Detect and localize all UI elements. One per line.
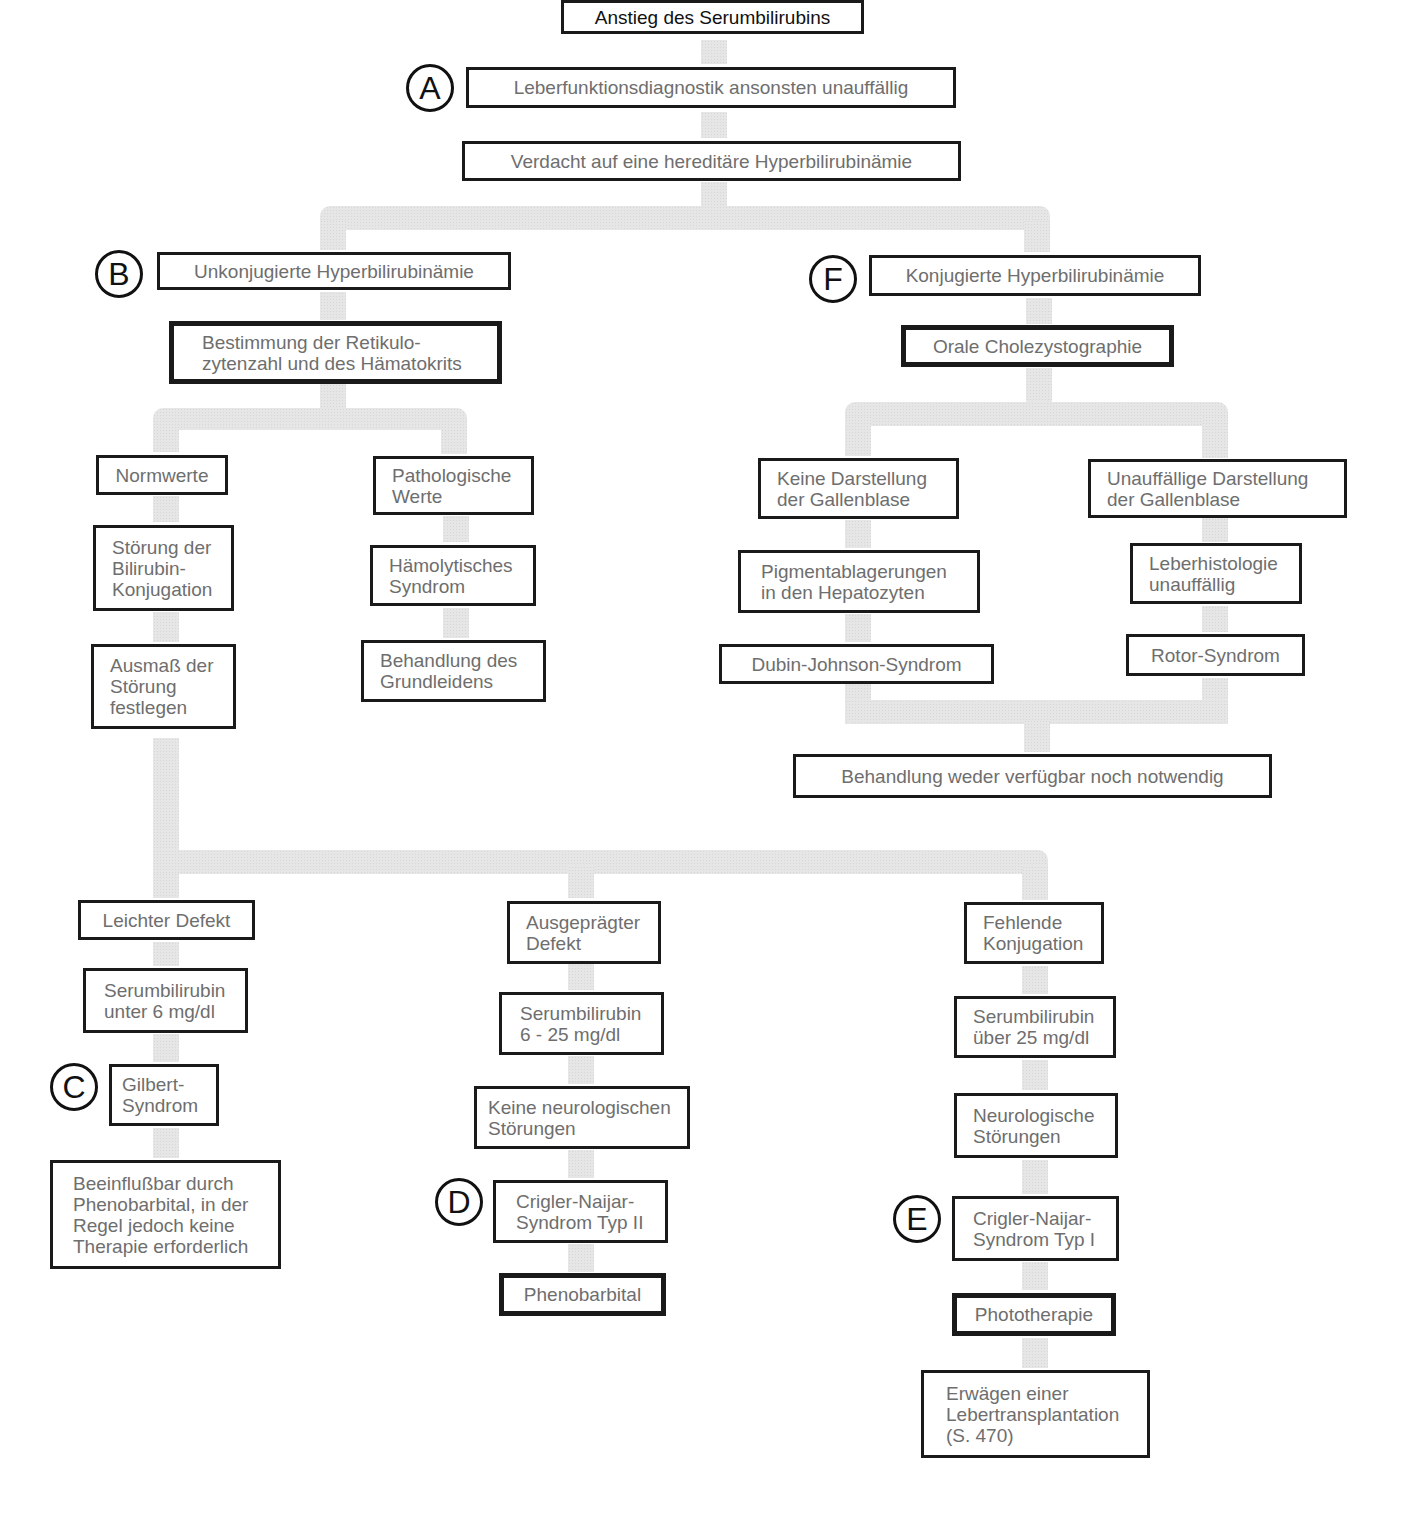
node-text: Verdacht auf eine hereditäre Hyperbiliru… — [511, 151, 912, 172]
node-neuro: Neurologische Störungen — [954, 1093, 1118, 1158]
node-text: Gilbert- Syndrom — [122, 1074, 198, 1116]
connector — [1022, 1060, 1048, 1090]
node-behandlung-weder: Behandlung weder verfügbar noch notwendi… — [793, 754, 1272, 798]
marker-e: E — [893, 1195, 941, 1243]
node-leberhistologie: Leberhistologie unauffällig — [1130, 543, 1302, 604]
node-lebertransplantation: Erwägen einer Lebertransplantation (S. 4… — [921, 1370, 1150, 1458]
connector — [443, 608, 469, 638]
node-keine-darstellung: Keine Darstellung der Gallenblase — [758, 458, 959, 519]
connector — [153, 496, 179, 522]
node-serum-unter6: Serumbilirubin unter 6 mg/dl — [83, 968, 248, 1033]
node-stoerung-konjugation: Störung der Bilirubin- Konjugation — [93, 525, 234, 611]
connector — [1022, 1262, 1048, 1290]
node-text: Beeinflußbar durch Phenobarbital, in der… — [73, 1173, 248, 1257]
node-gilbert: Gilbert- Syndrom — [109, 1064, 219, 1126]
connector — [1026, 298, 1052, 324]
title-box: Anstieg des Serumbilirubins — [561, 0, 864, 34]
connector — [845, 520, 871, 548]
connector — [1022, 866, 1048, 900]
node-leichter-defekt: Leichter Defekt — [78, 900, 255, 940]
connector — [1022, 1338, 1048, 1368]
connector — [153, 420, 179, 452]
node-text: Ausmaß der Störung festlegen — [110, 655, 213, 718]
node-text: Behandlung weder verfügbar noch notwendi… — [841, 766, 1223, 787]
connector — [568, 866, 594, 898]
connector — [1024, 720, 1050, 752]
marker-f: F — [809, 255, 857, 303]
connector — [320, 220, 346, 250]
connector — [568, 1056, 594, 1084]
node-unkonjugiert: Unkonjugierte Hyperbilirubinämie — [157, 252, 511, 290]
connector — [153, 1034, 179, 1062]
node-unauffaellige-darstellung: Unauffällige Darstellung der Gallenblase — [1088, 459, 1347, 518]
node-text: Keine Darstellung der Gallenblase — [777, 468, 927, 510]
node-phototherapie: Phototherapie — [952, 1293, 1116, 1336]
title-text: Anstieg des Serumbilirubins — [595, 7, 831, 28]
node-crigler2: Crigler-Naijar- Syndrom Typ II — [493, 1180, 668, 1243]
connector — [701, 112, 727, 138]
node-text: Bestimmung der Retikulo- zytenzahl und d… — [202, 332, 462, 374]
node-text: Ausgeprägter Defekt — [526, 912, 640, 954]
node-text: Störung der Bilirubin- Konjugation — [112, 537, 212, 600]
connector — [845, 416, 871, 456]
node-pathologisch: Pathologische Werte — [373, 456, 534, 515]
connector — [568, 1244, 594, 1272]
node-leberfunktion: Leberfunktionsdiagnostik ansonsten unauf… — [466, 67, 956, 108]
node-text: Unkonjugierte Hyperbilirubinämie — [194, 261, 474, 282]
node-text: Crigler-Naijar- Syndrom Typ I — [973, 1208, 1095, 1250]
node-cholezystographie: Orale Cholezystographie — [901, 325, 1174, 367]
connector — [1202, 416, 1228, 458]
node-text: Dubin-Johnson-Syndrom — [751, 654, 961, 675]
connector — [153, 1128, 179, 1158]
connector — [153, 612, 179, 642]
node-text: Phenobarbital — [524, 1284, 641, 1305]
connector — [320, 206, 1050, 230]
node-fehlende-konjugation: Fehlende Konjugation — [964, 902, 1104, 964]
marker-b: B — [95, 250, 143, 298]
node-konjugiert: Konjugierte Hyperbilirubinämie — [869, 255, 1201, 296]
node-ausmass: Ausmaß der Störung festlegen — [91, 644, 236, 729]
node-text: Erwägen einer Lebertransplantation (S. 4… — [946, 1383, 1119, 1446]
connector — [568, 1150, 594, 1178]
node-pigment: Pigmentablagerungen in den Hepatozyten — [738, 550, 980, 613]
connector — [153, 942, 179, 966]
node-haemolytisch: Hämolytisches Syndrom — [370, 545, 536, 606]
node-text: Leichter Defekt — [103, 910, 231, 931]
node-dubin-johnson: Dubin-Johnson-Syndrom — [719, 644, 994, 684]
node-text: Rotor-Syndrom — [1151, 645, 1280, 666]
node-text: Pigmentablagerungen in den Hepatozyten — [761, 561, 947, 603]
node-text: Keine neurologischen Störungen — [488, 1097, 671, 1139]
connector — [153, 738, 179, 898]
connector — [1022, 966, 1048, 994]
node-text: Phototherapie — [975, 1304, 1093, 1325]
node-bestimmung: Bestimmung der Retikulo- zytenzahl und d… — [169, 321, 502, 384]
node-text: Konjugierte Hyperbilirubinämie — [906, 265, 1165, 286]
node-text: Fehlende Konjugation — [983, 912, 1083, 954]
node-text: Serumbilirubin unter 6 mg/dl — [104, 980, 225, 1022]
connector — [1022, 1160, 1048, 1194]
connector — [701, 40, 727, 64]
node-text: Neurologische Störungen — [973, 1105, 1094, 1147]
connector — [1026, 368, 1052, 406]
node-text: Behandlung des Grundleidens — [380, 650, 517, 692]
connector — [443, 516, 469, 542]
node-serum-ueber25: Serumbilirubin über 25 mg/dl — [954, 996, 1116, 1058]
connector — [845, 402, 1228, 426]
node-ausgepraegter-defekt: Ausgeprägter Defekt — [507, 901, 661, 964]
connector — [1202, 606, 1228, 632]
node-text: Orale Cholezystographie — [933, 336, 1142, 357]
node-beeinflussbar: Beeinflußbar durch Phenobarbital, in der… — [50, 1160, 281, 1269]
connector — [568, 964, 594, 990]
connector — [153, 408, 467, 430]
node-text: Serumbilirubin 6 - 25 mg/dl — [520, 1003, 641, 1045]
connector — [845, 614, 871, 642]
marker-d: D — [435, 1178, 483, 1226]
connector — [1024, 220, 1050, 252]
marker-a: A — [406, 64, 454, 112]
node-serum-6-25: Serumbilirubin 6 - 25 mg/dl — [499, 992, 664, 1055]
node-behandlung-grundleiden: Behandlung des Grundleidens — [361, 640, 546, 702]
node-normwerte: Normwerte — [96, 455, 228, 495]
connector — [441, 420, 467, 454]
node-text: Leberfunktionsdiagnostik ansonsten unauf… — [514, 77, 909, 98]
node-text: Crigler-Naijar- Syndrom Typ II — [516, 1191, 643, 1233]
